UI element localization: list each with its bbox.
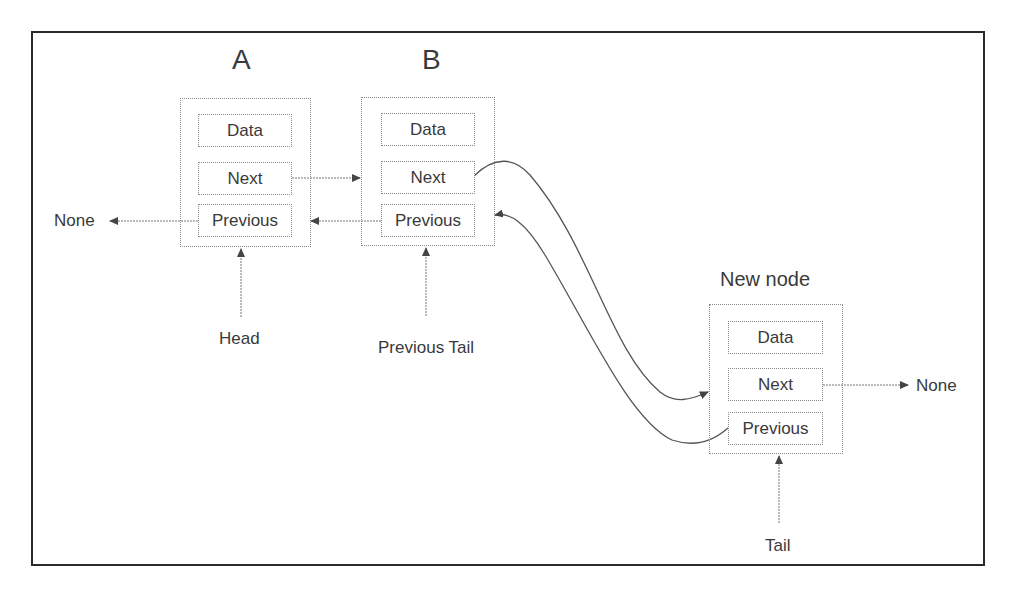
- previous-tail-label: Previous Tail: [378, 338, 474, 358]
- node-b-data-field: Data: [381, 113, 475, 146]
- head-label: Head: [219, 329, 260, 349]
- left-none-label: None: [54, 211, 95, 231]
- node-a-data-field: Data: [198, 114, 292, 147]
- new-node-title: New node: [720, 268, 810, 291]
- node-b-next-field: Next: [381, 161, 475, 194]
- node-b-previous-field: Previous: [381, 204, 475, 237]
- new-node-next-field: Next: [728, 368, 823, 401]
- node-b-title: B: [422, 44, 441, 76]
- tail-label: Tail: [765, 536, 791, 556]
- edges-layer: [0, 0, 1022, 593]
- node-a-next-field: Next: [198, 162, 292, 195]
- right-none-label: None: [916, 376, 957, 396]
- new-node-data-field: Data: [728, 321, 823, 354]
- node-a-previous-field: Previous: [198, 204, 292, 237]
- edge-new-prev-to-b: [495, 214, 728, 443]
- node-a-title: A: [232, 44, 251, 76]
- edge-b-next-to-new: [474, 161, 708, 399]
- new-node-previous-field: Previous: [728, 412, 823, 445]
